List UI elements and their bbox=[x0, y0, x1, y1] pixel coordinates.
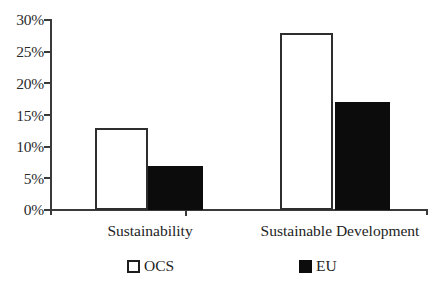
x-axis-group-separator-tick bbox=[185, 209, 187, 216]
legend-swatch-filled-square-icon bbox=[299, 260, 312, 273]
y-tick-label-15: 15% bbox=[0, 108, 44, 124]
bar-ocs-sustainability bbox=[95, 128, 148, 210]
legend-item-ocs: OCS bbox=[127, 258, 174, 274]
y-tick-label-10: 10% bbox=[0, 139, 44, 155]
legend-swatch-open-square-icon bbox=[127, 260, 140, 273]
bar-ocs-sustainable-development bbox=[280, 33, 333, 210]
plot-area bbox=[50, 20, 428, 210]
bar-chart: 30% 25% 20% 15% 10% 5% 0% Sustainability… bbox=[0, 0, 445, 286]
y-tick-label-0: 0% bbox=[0, 202, 44, 218]
chart-legend: OCS EU bbox=[0, 258, 445, 282]
bar-eu-sustainable-development bbox=[335, 102, 390, 210]
y-tick-label-20: 20% bbox=[0, 76, 44, 92]
legend-item-eu: EU bbox=[299, 258, 337, 274]
legend-label-eu: EU bbox=[316, 258, 337, 274]
bar-eu-sustainability bbox=[148, 166, 203, 210]
legend-label-ocs: OCS bbox=[144, 258, 174, 274]
y-tick-label-30: 30% bbox=[0, 12, 44, 28]
category-label-sustainable-development: Sustainable Development bbox=[240, 222, 440, 240]
y-tick-label-5: 5% bbox=[0, 171, 44, 187]
category-label-sustainability: Sustainability bbox=[60, 222, 240, 240]
y-tick-label-25: 25% bbox=[0, 44, 44, 60]
